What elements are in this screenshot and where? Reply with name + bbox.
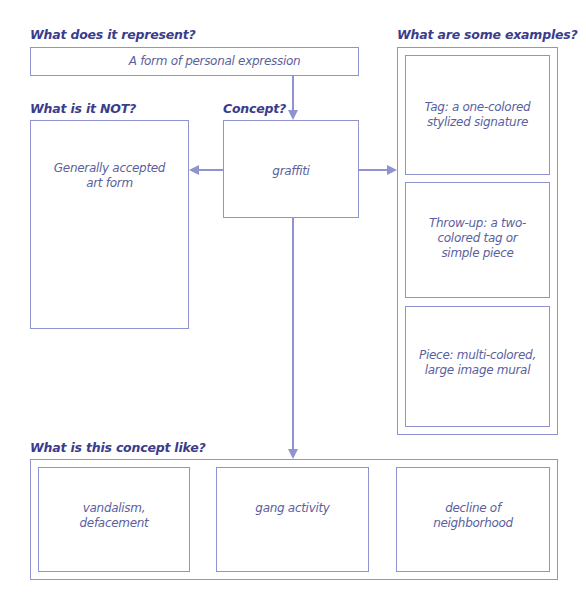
like-text: gang activity	[217, 501, 368, 516]
like-text: decline of neighborhood	[397, 501, 549, 531]
examples-heading: What are some examples?	[397, 27, 578, 42]
like-heading: What is this concept like?	[30, 440, 206, 455]
connector-concept-not	[196, 169, 223, 171]
example-text: Throw-up: a two-colored tag or simple pi…	[406, 216, 549, 261]
example-item: Tag: a one-colored stylized signature	[405, 55, 550, 175]
connector-concept-examples	[359, 169, 389, 171]
concept-heading: Concept?	[223, 101, 286, 116]
represent-box: A form of personal expression	[30, 47, 359, 76]
arrow-down-icon	[288, 449, 298, 459]
arrow-right-icon	[387, 165, 397, 175]
concept-box: graffiti	[223, 120, 359, 218]
arrow-down-icon	[288, 110, 298, 120]
like-item: vandalism, defacement	[38, 467, 190, 572]
connector-represent-concept	[292, 76, 294, 112]
like-item: decline of neighborhood	[396, 467, 550, 572]
example-item: Throw-up: a two-colored tag or simple pi…	[405, 182, 550, 298]
concept-text: graffiti	[224, 164, 358, 179]
not-text: Generally accepted art form	[31, 161, 188, 191]
example-item: Piece: multi-colored, large image mural	[405, 306, 550, 427]
arrow-left-icon	[189, 165, 199, 175]
like-item: gang activity	[216, 467, 369, 572]
example-text: Tag: a one-colored stylized signature	[406, 100, 549, 130]
not-box: Generally accepted art form	[30, 120, 189, 329]
represent-text: A form of personal expression	[31, 48, 358, 75]
example-text: Piece: multi-colored, large image mural	[406, 348, 549, 378]
connector-concept-like	[292, 218, 294, 450]
like-text: vandalism, defacement	[39, 501, 189, 531]
not-heading: What is it NOT?	[30, 101, 136, 116]
represent-heading: What does it represent?	[30, 27, 196, 42]
